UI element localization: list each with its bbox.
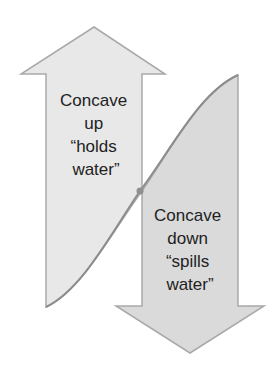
down-label-line: Concave bbox=[154, 206, 221, 225]
inflection-point bbox=[137, 188, 144, 195]
concavity-diagram: Concave up “holds water” Concave down “s… bbox=[0, 0, 272, 372]
down-label-line: down bbox=[167, 229, 208, 248]
down-label-line: water” bbox=[165, 275, 214, 294]
up-label-line: water” bbox=[71, 160, 120, 179]
up-label-line: “holds bbox=[70, 137, 116, 156]
up-label-line: Concave bbox=[60, 91, 127, 110]
down-label-line: “spills bbox=[166, 252, 209, 271]
up-label-line: up bbox=[84, 114, 103, 133]
